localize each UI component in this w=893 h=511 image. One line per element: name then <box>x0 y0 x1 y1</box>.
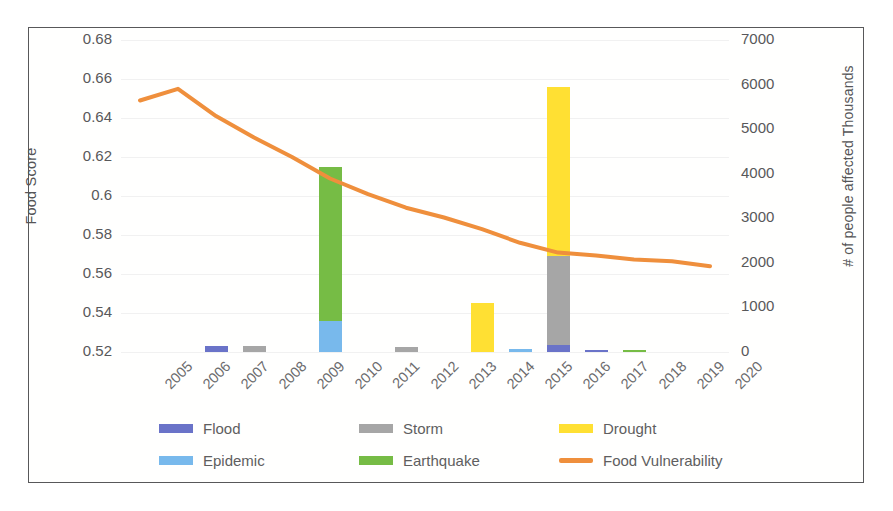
y-right-tick-label: 1000 <box>741 297 774 314</box>
y-left-tick-label: 0.56 <box>83 264 112 281</box>
chart-legend: FloodStormDroughtEpidemicEarthquakeFood … <box>159 420 739 480</box>
legend-label: Flood <box>203 420 241 437</box>
x-tick-label-2015: 2015 <box>541 358 575 392</box>
x-tick-label-2006: 2006 <box>199 358 233 392</box>
legend-swatch-square-icon <box>559 424 593 433</box>
y-left-tick-label: 0.54 <box>83 303 112 320</box>
plot-area: 0.680.660.640.620.60.580.560.540.52 7000… <box>121 40 729 352</box>
x-tick-label-2014: 2014 <box>503 358 537 392</box>
x-tick-label-2016: 2016 <box>579 358 613 392</box>
y-right-tick-label: 4000 <box>741 164 774 181</box>
legend-swatch-square-icon <box>159 424 193 433</box>
x-tick-label-2007: 2007 <box>237 358 271 392</box>
y-left-tick-label: 0.58 <box>83 225 112 242</box>
line-series-food-vulnerability <box>121 40 729 352</box>
x-tick-label-2013: 2013 <box>465 358 499 392</box>
legend-label: Earthquake <box>403 452 480 469</box>
x-tick-label-2005: 2005 <box>161 358 195 392</box>
y-axis-right-title: # of people affected Thousands <box>840 65 856 267</box>
x-tick-label-2012: 2012 <box>427 358 461 392</box>
y-right-tick-label: 2000 <box>741 253 774 270</box>
legend-item-flood[interactable]: Flood <box>159 420 241 437</box>
legend-label: Drought <box>603 420 656 437</box>
y-right-tick-label: 5000 <box>741 119 774 136</box>
chart-figure: Food Score # of people affected Thousand… <box>28 27 864 483</box>
y-left-tick-label: 0.52 <box>83 342 112 359</box>
legend-item-food-vulnerability[interactable]: Food Vulnerability <box>559 452 723 469</box>
food-vulnerability-line <box>140 89 710 266</box>
x-tick-label-2019: 2019 <box>693 358 727 392</box>
legend-item-earthquake[interactable]: Earthquake <box>359 452 480 469</box>
y-left-tick-label: 0.62 <box>83 147 112 164</box>
legend-item-epidemic[interactable]: Epidemic <box>159 452 265 469</box>
y-left-tick-label: 0.6 <box>91 186 112 203</box>
x-tick-label-2011: 2011 <box>389 358 422 391</box>
x-axis-tick-labels: 2005200620072008200920102011201220132014… <box>121 358 729 420</box>
y-axis-left-title: Food Score <box>23 148 39 225</box>
y-right-tick-label: 0 <box>741 342 749 359</box>
y-right-tick-label: 7000 <box>741 30 774 47</box>
x-tick-label-2020: 2020 <box>731 358 765 392</box>
gridline <box>121 352 729 353</box>
legend-label: Food Vulnerability <box>603 452 723 469</box>
x-tick-label-2010: 2010 <box>351 358 385 392</box>
legend-label: Epidemic <box>203 452 265 469</box>
legend-swatch-line-icon <box>559 458 593 463</box>
y-left-tick-label: 0.66 <box>83 69 112 86</box>
y-left-tick-label: 0.68 <box>83 30 112 47</box>
legend-item-drought[interactable]: Drought <box>559 420 656 437</box>
y-left-tick-label: 0.64 <box>83 108 112 125</box>
legend-swatch-square-icon <box>159 456 193 465</box>
x-tick-label-2018: 2018 <box>655 358 689 392</box>
legend-item-storm[interactable]: Storm <box>359 420 443 437</box>
legend-swatch-square-icon <box>359 456 393 465</box>
y-right-tick-label: 3000 <box>741 208 774 225</box>
legend-label: Storm <box>403 420 443 437</box>
x-tick-label-2009: 2009 <box>313 358 347 392</box>
y-right-tick-label: 6000 <box>741 75 774 92</box>
legend-swatch-square-icon <box>359 424 393 433</box>
x-tick-label-2017: 2017 <box>617 358 651 392</box>
x-tick-label-2008: 2008 <box>275 358 309 392</box>
